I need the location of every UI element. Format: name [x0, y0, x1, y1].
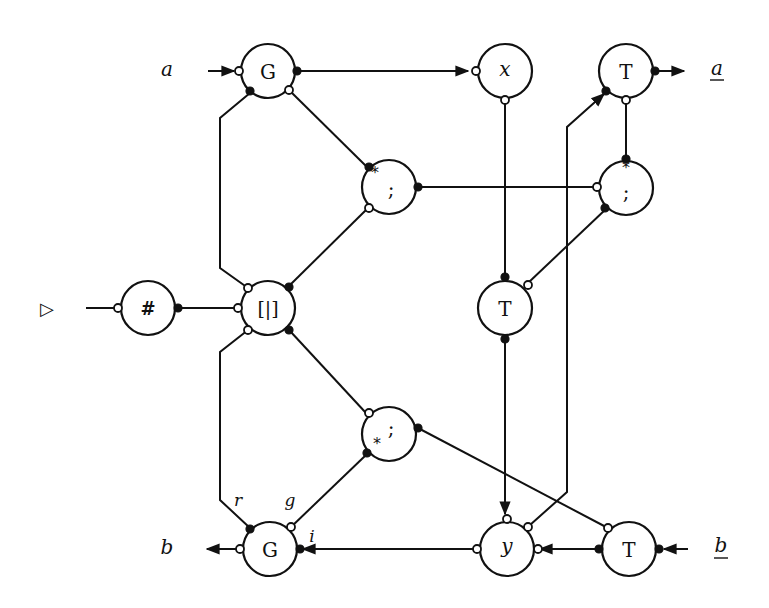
port-open [365, 204, 373, 212]
port-filled [293, 67, 301, 75]
port-filled [651, 67, 659, 75]
node-label: T [619, 60, 633, 84]
node-label: ; [388, 177, 395, 201]
wire-label-r: r [234, 490, 243, 510]
start-marker: ▷ [40, 298, 54, 319]
wire-label-g: g [285, 490, 296, 510]
port-open [622, 96, 630, 104]
port-filled [595, 545, 603, 553]
port-open [234, 304, 242, 312]
node-t-mid: T [478, 273, 532, 343]
node-label: x [499, 57, 510, 81]
node-label: ; [388, 416, 395, 440]
node-semi-star-top: ; * [362, 160, 422, 214]
port-filled [296, 545, 304, 553]
port-open [604, 524, 612, 532]
wire-semi-low-to-t-bottom [418, 428, 606, 527]
node-g-bottom: G [236, 522, 304, 576]
wire-semi-low-to-g-bottom [290, 455, 366, 528]
node-label: ; [623, 180, 630, 204]
port-open [472, 67, 480, 75]
port-open [287, 523, 295, 531]
node-g-top: G [235, 44, 301, 98]
wire-g-top-to-semi-top [291, 92, 366, 166]
node-label: T [498, 297, 512, 321]
node-t-bottom: T [595, 522, 663, 576]
port-filled [501, 273, 509, 281]
port-open [524, 523, 532, 531]
port-open [524, 281, 532, 289]
port-open [365, 409, 373, 417]
node-y: y [473, 515, 542, 576]
port-filled [501, 335, 509, 343]
wire-label-i: i [309, 526, 314, 546]
port-open [235, 67, 243, 75]
node-semi-star-low: ; * [362, 407, 422, 461]
port-open [501, 96, 509, 104]
port-open [244, 284, 252, 292]
port-filled [414, 183, 422, 191]
label-a-in: a [161, 57, 173, 81]
wire-choice-to-semi-low [290, 331, 366, 413]
node-label: T [622, 538, 636, 562]
node-choice: [|] [234, 281, 295, 335]
port-filled [285, 283, 293, 291]
port-filled [622, 155, 630, 163]
node-label: G [262, 538, 278, 562]
port-filled [414, 424, 422, 432]
node-label: # [140, 298, 155, 319]
port-filled [655, 545, 663, 553]
label-b-out: b [161, 535, 174, 559]
star-mark: * [373, 434, 381, 453]
node-semi-star-right: ; * [593, 155, 653, 215]
node-hash: # [114, 281, 182, 335]
node-label: [|] [257, 297, 278, 320]
label-a-out: a [711, 56, 723, 80]
port-filled [174, 304, 182, 312]
port-filled [602, 87, 610, 95]
port-open [236, 545, 244, 553]
port-filled [246, 525, 254, 533]
wire-y-to-t-top [530, 94, 604, 525]
port-open [473, 545, 481, 553]
port-open [244, 326, 252, 334]
wire-g-top-to-choice [220, 93, 250, 288]
port-filled [285, 326, 293, 334]
port-filled [365, 163, 373, 171]
interaction-net-diagram: G x T ; * ; * ▷ [0, 0, 769, 608]
port-filled [246, 87, 254, 95]
port-filled [363, 449, 371, 457]
node-x: x [472, 44, 532, 104]
node-label: y [500, 534, 513, 558]
node-label: G [260, 60, 276, 84]
port-open [593, 183, 601, 191]
port-open [534, 545, 542, 553]
port-open [503, 515, 511, 523]
port-open [285, 86, 293, 94]
node-t-top: T [599, 44, 659, 104]
port-open [114, 304, 122, 312]
label-b-in: b [715, 533, 728, 557]
wire-semi-top-to-choice [290, 210, 366, 285]
port-filled [601, 204, 609, 212]
